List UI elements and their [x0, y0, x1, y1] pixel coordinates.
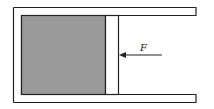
force-label: F — [139, 42, 148, 53]
cylinder-bottom-wall — [14, 95, 197, 103]
cylinder-top-wall — [14, 8, 197, 16]
piston-cylinder-diagram: F — [0, 0, 214, 109]
gas-region — [22, 16, 106, 95]
piston — [106, 16, 119, 95]
cylinder-left-wall — [14, 8, 22, 103]
arrow-head-icon — [119, 52, 126, 58]
